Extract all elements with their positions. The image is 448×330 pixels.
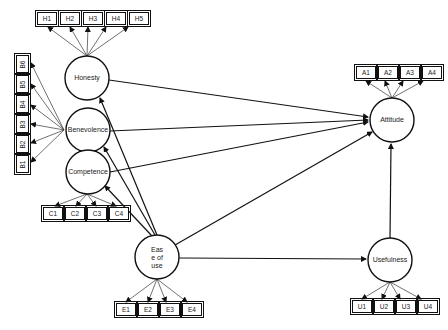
usefulness-label: Usefulness <box>362 256 418 264</box>
honesty-indicator-arrows <box>48 27 128 56</box>
ease-of-use-label: Eas e of use <box>137 246 177 270</box>
indicator-h4: H4 <box>106 12 126 25</box>
indicator-a3: A3 <box>400 66 420 79</box>
usefulness-indicator-arrows <box>362 282 421 299</box>
benevolence-indicator-arrows <box>31 63 64 162</box>
indicator-a4: A4 <box>422 66 442 79</box>
indicator-b5-text: B5 <box>19 80 26 88</box>
attitude-label: Attitude <box>367 116 417 124</box>
indicator-b1: B1 <box>16 155 29 173</box>
indicator-b2-text: B2 <box>19 140 26 148</box>
competence-indicator-arrows <box>55 194 116 206</box>
indicator-b6: B6 <box>16 55 29 73</box>
indicator-h5: H5 <box>129 12 149 25</box>
ease-label-line-3: use <box>137 262 177 270</box>
ease-indicator-arrows <box>126 279 187 302</box>
indicator-u3: U3 <box>396 300 416 313</box>
diagram-canvas <box>0 0 448 330</box>
indicator-c1: C1 <box>43 207 63 220</box>
indicator-b1-text: B1 <box>19 160 26 168</box>
indicator-c2: C2 <box>65 207 85 220</box>
indicator-e2: E2 <box>138 303 158 316</box>
indicator-b4: B4 <box>16 95 29 113</box>
indicator-b4-text: B4 <box>19 100 26 108</box>
indicator-b5: B5 <box>16 75 29 93</box>
ease-label-line-1: Eas <box>137 246 177 254</box>
structural-paths <box>100 80 391 259</box>
indicator-b6-text: B6 <box>19 60 26 68</box>
indicator-b3: B3 <box>16 115 29 133</box>
indicator-b2: B2 <box>16 135 29 153</box>
ease-label-line-2: e of <box>137 254 177 262</box>
attitude-indicator-arrows <box>366 81 423 98</box>
indicator-e4: E4 <box>182 303 202 316</box>
indicator-u4: U4 <box>418 300 438 313</box>
indicator-h2: H2 <box>60 12 80 25</box>
indicator-h1: H1 <box>37 12 57 25</box>
benevolence-label: Benevolence <box>60 126 116 134</box>
indicator-c4: C4 <box>109 207 129 220</box>
indicator-c3: C3 <box>87 207 107 220</box>
indicator-h3: H3 <box>83 12 103 25</box>
indicator-u2: U2 <box>374 300 394 313</box>
competence-label: Competence <box>60 168 116 176</box>
honesty-label: Honesty <box>62 74 112 82</box>
indicator-a2: A2 <box>378 66 398 79</box>
indicator-e1: E1 <box>116 303 136 316</box>
indicator-a1: A1 <box>356 66 376 79</box>
indicator-u1: U1 <box>352 300 372 313</box>
indicator-e3: E3 <box>160 303 180 316</box>
indicator-b3-text: B3 <box>19 120 26 128</box>
